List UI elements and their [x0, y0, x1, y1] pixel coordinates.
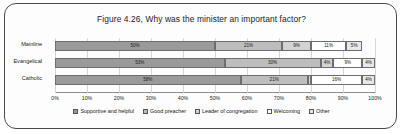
bar-segment: 4%	[321, 58, 334, 68]
legend-swatch-icon	[195, 109, 200, 114]
page-title: Figure 4.26, Why was the minister an imp…	[5, 14, 398, 24]
bar-segment: 5%	[346, 41, 362, 51]
table-row: 58%21%1%16%4%	[55, 75, 375, 85]
x-axis-tick: 90%	[338, 95, 348, 101]
bar-segment-value: 11%	[324, 44, 333, 49]
x-axis-tick: 70%	[274, 95, 284, 101]
legend-item-label: Welcoming	[274, 108, 301, 114]
category-label-evangelical: Evangelical	[0, 58, 42, 64]
legend-item[interactable]: Leader of congregation	[195, 108, 257, 114]
legend-item-label: Supportive and helpful	[80, 108, 134, 114]
plot-area: 50%21%9%11%5% 53%30%4%9%4% 58%21%1%16%4%	[55, 38, 375, 93]
legend-swatch-icon	[143, 109, 148, 114]
figure-frame: Figure 4.26, Why was the minister an imp…	[4, 3, 397, 129]
bar-segment-value: 30%	[268, 61, 277, 66]
category-label-catholic: Catholic	[0, 75, 42, 81]
x-axis-tick: 30%	[146, 95, 156, 101]
bar-segment: 21%	[215, 41, 282, 51]
legend-swatch-icon	[267, 109, 272, 114]
gridline	[375, 38, 376, 93]
x-axis-tick: 80%	[306, 95, 316, 101]
x-axis-tick: 10%	[82, 95, 92, 101]
legend-item-label: Other	[316, 108, 329, 114]
bar-segment-value: 5%	[351, 44, 358, 49]
bar-segment: 4%	[362, 58, 375, 68]
legend-item-label: Leader of congregation	[202, 108, 257, 114]
bar-segment: 9%	[282, 41, 311, 51]
legend-swatch-icon	[73, 109, 78, 114]
bar-segment: 50%	[55, 41, 215, 51]
bar-segment-value: 50%	[130, 44, 139, 49]
legend: Supportive and helpfulGood preacherLeade…	[5, 108, 398, 114]
bar-segment-value: 21%	[270, 78, 279, 83]
bar-segment: 11%	[311, 41, 346, 51]
bar-segment: 30%	[225, 58, 321, 68]
legend-item[interactable]: Supportive and helpful	[73, 108, 134, 114]
bar-segment-value: 4%	[365, 78, 372, 83]
bar-segment: 16%	[311, 75, 362, 85]
bar-segment-value: 4%	[365, 61, 372, 66]
x-axis-tick: 60%	[242, 95, 252, 101]
x-axis-tick: 40%	[178, 95, 188, 101]
x-axis-tick: 0%	[51, 95, 59, 101]
x-axis-tick-labels: 0%10%20%30%40%50%60%70%80%90%100%	[55, 95, 375, 105]
legend-item-label: Good preacher	[150, 108, 186, 114]
legend-item[interactable]: Good preacher	[143, 108, 186, 114]
table-row: 50%21%9%11%5%	[55, 41, 375, 51]
category-label-mainline: Mainline	[0, 41, 42, 47]
x-axis-tick: 100%	[368, 95, 381, 101]
bar-segment-value: 53%	[135, 61, 144, 66]
bar-segment-value: 16%	[332, 78, 341, 83]
x-axis-tick: 20%	[114, 95, 124, 101]
bar-segment: 21%	[241, 75, 308, 85]
bar-segment: 53%	[55, 58, 225, 68]
bar-segment: 58%	[55, 75, 241, 85]
bar-segment: 9%	[333, 58, 362, 68]
bar-segment-value: 58%	[143, 78, 152, 83]
bar-segment-value: 9%	[293, 44, 300, 49]
bar-segment: 4%	[362, 75, 375, 85]
legend-swatch-icon	[309, 109, 314, 114]
table-row: 53%30%4%9%4%	[55, 58, 375, 68]
legend-item[interactable]: Other	[309, 108, 329, 114]
bar-segment-value: 21%	[244, 44, 253, 49]
x-axis-tick: 50%	[210, 95, 220, 101]
legend-item[interactable]: Welcoming	[267, 108, 301, 114]
bar-segment-value: 4%	[324, 61, 331, 66]
bar-segment-value: 9%	[344, 61, 351, 66]
